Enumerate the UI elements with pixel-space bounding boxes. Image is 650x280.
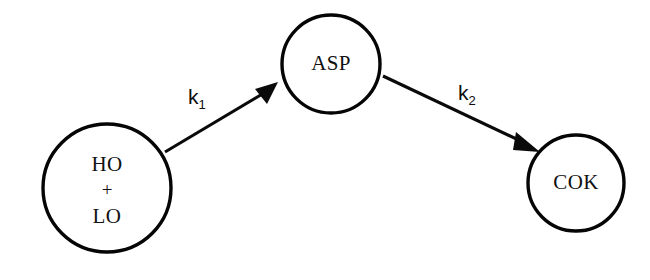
rate-label-k1: k1 xyxy=(188,85,206,112)
node-reactants-operator: + xyxy=(102,179,113,200)
node-reactants: HO + LO xyxy=(43,124,171,252)
node-cok: COK xyxy=(528,135,624,231)
rate-label-k1-subscript: 1 xyxy=(199,97,206,112)
node-asp: ASP xyxy=(282,15,380,113)
node-reactants-line3: LO xyxy=(93,204,122,228)
arrow-k1 xyxy=(165,82,278,152)
rate-label-k2-subscript: 2 xyxy=(469,93,476,108)
node-cok-label: COK xyxy=(553,170,599,194)
rate-label-k1-base: k xyxy=(188,85,199,108)
arrow-k2-head-icon xyxy=(513,132,540,152)
node-asp-label: ASP xyxy=(311,51,351,75)
scheme-canvas: HO + LO ASP COK k1 k2 xyxy=(0,0,650,280)
arrow-k2-line xyxy=(383,76,525,143)
rate-label-k2: k2 xyxy=(458,81,476,108)
arrow-k1-line xyxy=(165,93,264,152)
node-reactants-line1: HO xyxy=(91,152,122,176)
reaction-scheme-diagram: HO + LO ASP COK k1 k2 xyxy=(0,0,650,280)
rate-label-k2-base: k xyxy=(458,81,469,104)
arrow-k1-head-icon xyxy=(255,82,278,104)
